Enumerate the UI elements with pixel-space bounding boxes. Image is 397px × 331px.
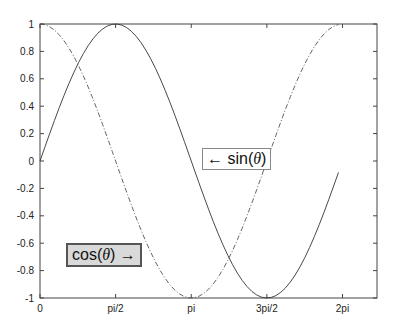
- x-tick-label: pi/2: [108, 303, 125, 314]
- x-tick-label: 0: [37, 303, 43, 314]
- y-tick-label: -1: [25, 293, 34, 304]
- sin-annotation: ← sin(θ): [202, 148, 271, 170]
- y-tick-label: 0: [28, 156, 34, 167]
- x-tick-label: pi: [187, 303, 195, 314]
- cos-annotation: cos(θ) →: [66, 243, 142, 267]
- line-chart: 0pi/2pi3pi/22pi10.80.60.40.20-0.2-0.4-0.…: [0, 0, 397, 331]
- y-tick-label: 1: [28, 19, 34, 30]
- x-tick-label: 2pi: [336, 303, 349, 314]
- y-tick-label: -0.6: [17, 238, 35, 249]
- y-tick-label: 0.2: [20, 128, 34, 139]
- y-tick-label: 0.6: [20, 73, 34, 84]
- y-tick-label: -0.8: [17, 265, 35, 276]
- x-tick-label: 3pi/2: [256, 303, 278, 314]
- y-tick-label: -0.4: [17, 210, 35, 221]
- y-tick-label: -0.2: [17, 183, 35, 194]
- y-tick-label: 0.4: [20, 101, 34, 112]
- y-tick-label: 0.8: [20, 46, 34, 57]
